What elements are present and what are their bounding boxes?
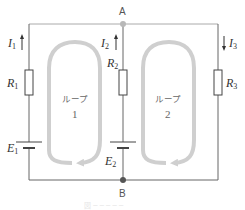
loop-1-number: 1 [72, 108, 78, 120]
current-label-i1: I1 [7, 36, 16, 51]
loop-2-label: ループ [155, 94, 181, 104]
node-b-label: B [119, 188, 126, 199]
resistor-r3 [214, 70, 222, 95]
current-arrow-i1 [20, 34, 24, 50]
current-label-i2: I2 [100, 36, 109, 51]
resistor-r1 [25, 70, 33, 95]
resistor-label-r2: R2 [106, 56, 118, 71]
loop-2-number: 2 [165, 108, 171, 120]
current-arrow-i2 [114, 34, 118, 50]
figure-caption: 図 ─ ─ ─ ─ ─ [84, 202, 124, 210]
resistor-label-r3: R3 [225, 76, 237, 91]
node-a-dot [120, 21, 126, 27]
resistor-label-r1: R1 [6, 76, 18, 91]
source-label-e1: E1 [6, 141, 18, 156]
circuit-diagram: A B I1 I2 I3 R1 R2 R3 E1 E2 ループ 1 ループ 2 … [0, 0, 245, 210]
battery-e1 [16, 142, 42, 148]
node-b-dot [120, 177, 126, 183]
source-label-e2: E2 [104, 154, 116, 169]
resistor-r2 [119, 70, 127, 95]
current-arrow-i3 [222, 36, 226, 51]
node-a-label: A [119, 6, 126, 17]
current-label-i3: I3 [228, 36, 237, 51]
loop-1-label: ループ [62, 94, 88, 104]
battery-e2 [110, 142, 136, 148]
